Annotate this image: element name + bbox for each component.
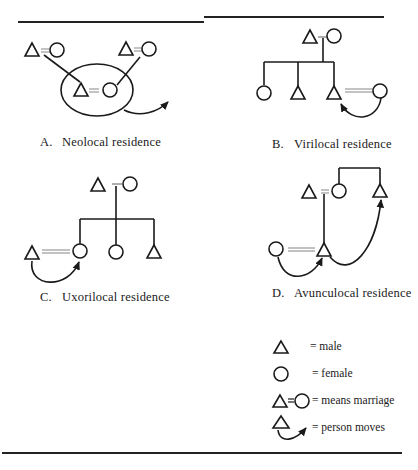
circle-icon [123,177,137,191]
triangle-icon [147,245,161,258]
legend-male: = male [310,340,342,352]
caption-b: B.Virilocal residence [272,137,392,152]
legend-symbols [273,341,309,439]
triangle-icon [327,86,341,99]
legend-moves: = person moves [312,421,385,433]
caption-letter: B. [272,137,294,152]
marriage-icon [273,395,287,407]
triangle-icon [91,178,105,191]
triangle-icon [25,246,39,259]
caption-letter: D. [272,286,294,301]
triangle-icon [317,243,331,256]
legend-marriage: = means marriage [312,394,394,406]
triangle-icon [119,42,133,55]
circle-icon [103,83,117,97]
circle-icon [50,43,64,57]
circle-icon [269,242,283,256]
new-residence-ellipse [61,64,133,116]
triangle-icon [373,184,387,197]
triangle-icon [302,185,316,198]
caption-letter: A. [40,135,62,150]
arrow-icon [32,261,79,282]
circle-icon [274,367,288,381]
caption-text: Virilocal residence [294,137,392,151]
triangle-icon [274,341,288,353]
circle-icon [257,86,271,100]
triangle-icon [25,43,39,56]
caption-text: Neolocal residence [62,135,161,149]
triangle-icon [291,86,305,99]
triangle-icon [74,83,88,96]
caption-a: A.Neolocal residence [40,135,161,150]
circle-icon [73,244,87,258]
circle-icon [109,245,123,259]
caption-letter: C. [40,290,62,305]
arrow-icon [330,200,381,265]
panel-c-diagram [25,177,161,282]
legend-female: = female [312,367,353,379]
circle-icon [142,42,156,56]
arrow-icon [124,102,168,114]
triangle-icon [303,30,317,43]
caption-d: D.Avunculocal residence [272,286,411,301]
circle-icon [373,84,387,98]
circle-icon [327,29,341,43]
caption-c: C.Uxorilocal residence [40,290,170,305]
person-moves-icon [273,416,289,428]
caption-text: Avunculocal residence [294,286,411,300]
arrow-icon [278,257,322,276]
caption-text: Uxorilocal residence [62,290,170,304]
panel-d-diagram [269,168,387,276]
panel-b-diagram [257,29,387,117]
arrow-icon [341,98,381,117]
circle-icon [332,184,346,198]
panel-a-diagram [25,42,168,116]
